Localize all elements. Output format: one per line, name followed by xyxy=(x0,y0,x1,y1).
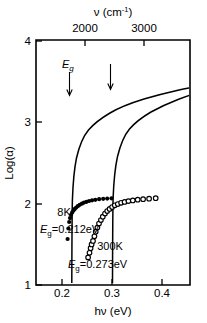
figure-container: ν (cm-1) 2000 3000 xyxy=(0,0,207,323)
eg-arrow-label-sub: g xyxy=(69,64,74,73)
y-tick-label-3: 3 xyxy=(25,116,31,128)
absorption-edge-chart: ν (cm-1) 2000 3000 xyxy=(0,0,207,323)
label-8k: 8K xyxy=(57,206,71,218)
y-tick-label-4: 4 xyxy=(25,35,32,47)
eg-low-value: =0.212eV xyxy=(52,223,100,235)
svg-text:hν (eV): hν (eV) xyxy=(94,305,131,317)
x-tick-label-0.4: 0.4 xyxy=(154,287,171,299)
top-axis-unit-open: (cm xyxy=(99,6,121,18)
top-tick-label-3000: 3000 xyxy=(131,22,157,34)
y-tick-label-2: 2 xyxy=(25,198,31,210)
label-300k: 300K xyxy=(97,240,123,252)
x-axis-label-unit: (eV) xyxy=(107,305,132,317)
bottom-axis-title: hν (eV) xyxy=(94,305,131,317)
y-axis-title: Log(α) xyxy=(3,146,15,180)
annotation-temp-300k: 300K xyxy=(97,240,123,252)
y-axis-label-pre: Log( xyxy=(3,157,15,180)
y-axis-label-post: ) xyxy=(3,146,15,150)
chart-background xyxy=(0,0,207,323)
top-axis-exponent: -1 xyxy=(122,5,129,14)
top-axis-unit-close: ) xyxy=(128,6,132,18)
x-tick-label-0.2: 0.2 xyxy=(54,287,70,299)
eg-high-value: =0.273eV xyxy=(80,258,128,270)
svg-text:Log(α): Log(α) xyxy=(3,146,15,180)
annotation-temp-8k: 8K xyxy=(57,206,71,218)
y-tick-label-1: 1 xyxy=(25,279,31,291)
top-tick-label-2000: 2000 xyxy=(72,22,98,34)
x-tick-label-0.3: 0.3 xyxy=(104,287,120,299)
